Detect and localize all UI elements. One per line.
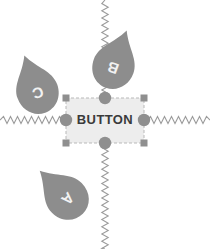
pin-a-teardrop xyxy=(25,156,98,229)
spring-left xyxy=(0,116,63,123)
handle-bottom-right[interactable] xyxy=(141,140,148,147)
handle-bottom-center[interactable] xyxy=(99,137,111,149)
pin-b-teardrop xyxy=(86,23,146,95)
handle-bottom-left[interactable] xyxy=(63,140,70,147)
handle-top-left[interactable] xyxy=(63,95,70,102)
pin-c-teardrop xyxy=(5,48,65,120)
handle-top-right[interactable] xyxy=(141,95,148,102)
map-pin-c[interactable]: C xyxy=(5,48,65,120)
spring-right xyxy=(147,116,210,123)
design-canvas[interactable]: C B A BUTTON xyxy=(0,0,210,249)
handle-top-center[interactable] xyxy=(99,92,111,104)
map-pin-b[interactable]: B xyxy=(86,23,146,95)
map-pin-a[interactable]: A xyxy=(25,156,98,229)
button-label: BUTTON xyxy=(65,108,145,132)
